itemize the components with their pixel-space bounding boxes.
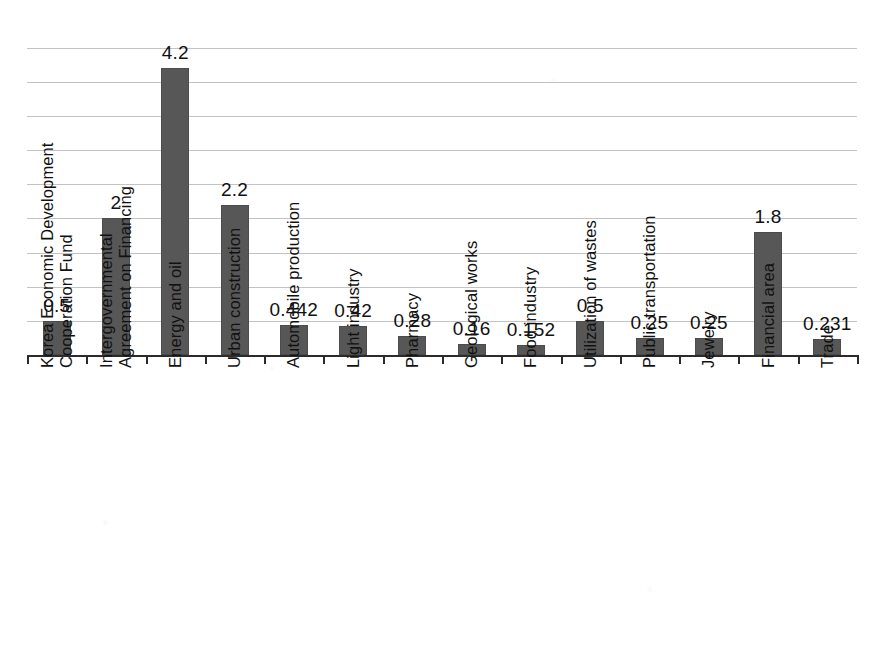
gridline <box>27 184 857 185</box>
bar-value-label: 4.2 <box>130 42 220 64</box>
bar-value-label: 0.5 <box>12 295 102 317</box>
bar-chart-figure: 0.524.22.20.4420.420.280.160.1520.50.250… <box>0 0 878 670</box>
gridline <box>27 150 857 151</box>
axis-tick <box>501 355 503 364</box>
axis-tick <box>442 355 444 364</box>
category-label: Urban construction <box>225 228 244 368</box>
gridline <box>27 287 857 288</box>
category-label-line: Cooperation Fund <box>57 143 76 368</box>
axis-tick <box>561 355 563 364</box>
bar-value-label: 0.25 <box>664 312 754 334</box>
category-label-line: Korea Economic Development <box>38 143 57 368</box>
category-label-line: Public transportation <box>640 215 659 368</box>
category-label-line: Energy and oil <box>166 261 185 368</box>
category-label-line: Food industry <box>521 267 540 368</box>
axis-tick <box>323 355 325 364</box>
axis-tick <box>27 355 29 364</box>
gridline <box>27 253 857 254</box>
axis-tick <box>205 355 207 364</box>
axis-tick <box>146 355 148 364</box>
axis-tick <box>679 355 681 364</box>
category-label: Financial area <box>759 263 778 368</box>
bar-value-label: 2.2 <box>190 179 280 201</box>
axis-tick <box>738 355 740 364</box>
gridline <box>27 82 857 83</box>
bar-value-label: 0.152 <box>486 319 576 341</box>
category-label: Korea Economic DevelopmentCooperation Fu… <box>38 143 76 368</box>
category-label-line: Geological works <box>462 241 481 368</box>
category-label: Automobile production <box>284 202 303 368</box>
bar-value-label: 2 <box>71 192 161 214</box>
category-label: Energy and oil <box>166 261 185 368</box>
bar-value-label: 1.8 <box>723 206 813 228</box>
category-label: Geological works <box>462 241 481 368</box>
axis-tick <box>798 355 800 364</box>
category-label: Public transportation <box>640 215 659 368</box>
bar-value-label: 0.231 <box>782 313 872 335</box>
axis-tick <box>383 355 385 364</box>
axis-tick <box>620 355 622 364</box>
gridline <box>27 116 857 117</box>
category-label-line: Urban construction <box>225 228 244 368</box>
axis-tick <box>86 355 88 364</box>
category-label: Food industry <box>521 267 540 368</box>
category-label-line: Automobile production <box>284 202 303 368</box>
axis-tick <box>857 355 859 364</box>
axis-tick <box>264 355 266 364</box>
plot-area <box>27 20 857 355</box>
category-label-line: Financial area <box>759 263 778 368</box>
